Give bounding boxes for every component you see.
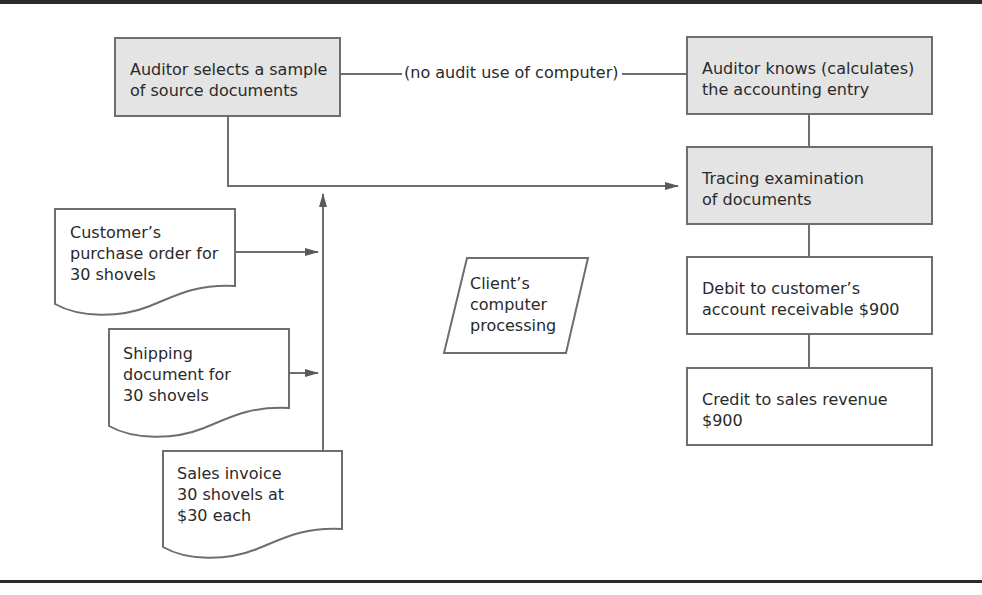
purchase-order-document: Customer’s purchase order for 30 shovels xyxy=(70,222,218,285)
node-text: $900 xyxy=(702,410,931,431)
node-text: 30 shovels xyxy=(123,385,231,406)
node-text: Auditor knows (calculates) xyxy=(702,58,931,79)
node-text: $30 each xyxy=(177,505,284,526)
node-text: Shipping xyxy=(123,343,231,364)
node-text: purchase order for xyxy=(70,243,218,264)
node-text: the accounting entry xyxy=(702,79,931,100)
sales-invoice-document: Sales invoice 30 shovels at $30 each xyxy=(177,463,284,526)
node-text: Customer’s xyxy=(70,222,218,243)
node-text: 30 shovels xyxy=(70,264,218,285)
client-computer-processing: Client’s computer processing xyxy=(470,273,556,336)
auditor-selects-sample-box: Auditor selects a sample of source docum… xyxy=(114,37,341,117)
node-text: account receivable $900 xyxy=(702,299,931,320)
auditor-knows-entry-box: Auditor knows (calculates) the accountin… xyxy=(686,36,933,115)
node-text: computer xyxy=(470,294,556,315)
node-text: document for xyxy=(123,364,231,385)
node-text: Client’s xyxy=(470,273,556,294)
tracing-examination-box: Tracing examination of documents xyxy=(686,146,933,225)
credit-entry-box: Credit to sales revenue $900 xyxy=(686,367,933,446)
node-text: Credit to sales revenue xyxy=(702,389,931,410)
node-text: of source documents xyxy=(130,80,339,101)
node-text: 30 shovels at xyxy=(177,484,284,505)
node-text: Debit to customer’s xyxy=(702,278,931,299)
node-text: Auditor selects a sample xyxy=(130,59,339,80)
node-text: Sales invoice xyxy=(177,463,284,484)
node-text: processing xyxy=(470,315,556,336)
node-text: Tracing examination xyxy=(702,168,931,189)
shipping-document: Shipping document for 30 shovels xyxy=(123,343,231,406)
no-audit-use-label: (no audit use of computer) xyxy=(402,63,620,83)
debit-entry-box: Debit to customer’s account receivable $… xyxy=(686,256,933,335)
node-text: of documents xyxy=(702,189,931,210)
